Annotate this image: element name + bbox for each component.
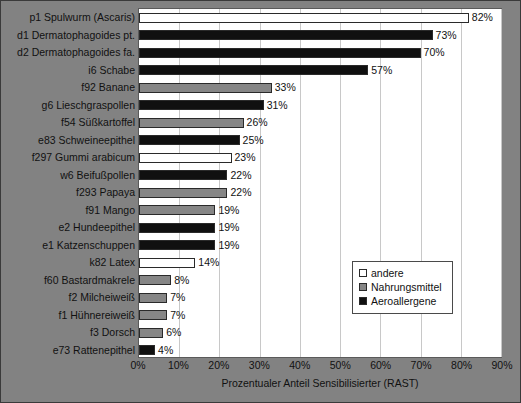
category-label: g6 Lieschgraspollen [42,97,135,115]
bar [139,30,433,40]
category-label: f91 Mango [85,202,135,220]
bar-value-label: 57% [371,62,392,80]
bar [139,345,155,355]
bar-value-label: 23% [235,149,256,167]
bar [139,275,171,285]
legend-item-nahrungsmittel: Nahrungsmittel [359,280,447,294]
bar-row: p1 Spulwurm (Ascaris)82% [139,9,501,27]
bar-row: g6 Lieschgraspollen31% [139,97,501,115]
x-tick-label: 10% [168,359,189,371]
category-label: k82 Latex [89,254,135,272]
category-label: f2 Milcheiweiß [68,289,135,307]
bar [139,170,227,180]
gridline [501,9,502,357]
x-tick-label: 50% [330,359,351,371]
bar-value-label: 14% [198,254,219,272]
chart-legend: andereNahrungsmittelAeroallergene [352,261,453,314]
legend-label: andere [371,267,404,279]
bar [139,48,421,58]
bar [139,205,215,215]
bar-row: f293 Papaya22% [139,184,501,202]
legend-swatch-icon [359,283,367,291]
bar-row: e73 Rattenepithel4% [139,342,501,360]
bar-value-label: 19% [218,219,239,237]
bar [139,240,215,250]
bar-row: f91 Mango19% [139,202,501,220]
x-tick-label: 20% [208,359,229,371]
bar [139,293,167,303]
category-label: f3 Dorsch [90,324,135,342]
legend-label: Nahrungsmittel [371,281,442,293]
bar-value-label: 26% [247,114,268,132]
bar [139,100,264,110]
category-label: f60 Bastardmakrele [44,272,135,290]
x-tick-label: 30% [249,359,270,371]
legend-item-andere: andere [359,266,447,280]
category-label: f293 Papaya [76,184,135,202]
bar-value-label: 19% [218,202,239,220]
bar [139,310,167,320]
bar-row: d1 Dermatophagoides pt.73% [139,27,501,45]
bar-value-label: 82% [472,9,493,27]
category-label: f92 Banane [81,79,135,97]
bar-value-label: 22% [230,167,251,185]
bar [139,153,232,163]
bar-row: f297 Gummi arabicum23% [139,149,501,167]
x-axis-title: Prozentualer Anteil Sensibilisierter (RA… [138,377,502,389]
bar [139,83,272,93]
bar-value-label: 19% [218,237,239,255]
bar [139,135,240,145]
bar-row: f92 Banane33% [139,79,501,97]
bar-value-label: 22% [230,184,251,202]
bar-row: f54 Süßkartoffel26% [139,114,501,132]
legend-swatch-icon [359,297,367,305]
bar-value-label: 7% [170,289,185,307]
category-label: e73 Rattenepithel [53,342,135,360]
bar-value-label: 7% [170,307,185,325]
category-label: e83 Schweineepithel [38,132,135,150]
bar-value-label: 31% [267,97,288,115]
bar [139,223,215,233]
bar-row: d2 Dermatophagoides fa.70% [139,44,501,62]
x-tick-label: 0% [130,359,145,371]
category-label: f54 Süßkartoffel [61,114,135,132]
x-tick-label: 90% [491,359,512,371]
chart-screenshot: p1 Spulwurm (Ascaris)82%d1 Dermatophagoi… [0,0,521,403]
category-label: i6 Schabe [88,62,135,80]
bar-row: i6 Schabe57% [139,62,501,80]
bar [139,188,227,198]
bar [139,258,195,268]
bar [139,328,163,338]
bar [139,118,244,128]
category-label: p1 Spulwurm (Ascaris) [29,9,135,27]
category-label: d1 Dermatophagoides pt. [17,27,135,45]
x-tick-label: 80% [451,359,472,371]
bar-value-label: 73% [436,27,457,45]
bar-row: e83 Schweineepithel25% [139,132,501,150]
bar-row: w6 Beifußpollen22% [139,167,501,185]
category-label: f1 Hühnereiweiß [59,307,135,325]
bar-row: e2 Hundeepithel19% [139,219,501,237]
category-label: w6 Beifußpollen [60,167,135,185]
bar-value-label: 8% [174,272,189,290]
category-label: e2 Hundeepithel [59,219,135,237]
x-tick-label: 40% [289,359,310,371]
category-label: e1 Katzenschuppen [42,237,135,255]
x-tick-label: 60% [370,359,391,371]
category-label: f297 Gummi arabicum [32,149,135,167]
x-tick-label: 70% [411,359,432,371]
bar-value-label: 4% [158,342,173,360]
bar-row: e1 Katzenschuppen19% [139,237,501,255]
bar-value-label: 33% [275,79,296,97]
bar [139,65,368,75]
bar-value-label: 70% [424,44,445,62]
bar [139,13,469,23]
bar-value-label: 25% [243,132,264,150]
category-label: d2 Dermatophagoides fa. [17,44,135,62]
bar-value-label: 6% [166,324,181,342]
x-axis-ticks: 0%10%20%30%40%50%60%70%80%90% [138,359,502,375]
bar-row: f3 Dorsch6% [139,324,501,342]
legend-label: Aeroallergene [371,295,436,307]
legend-item-aeroallergene: Aeroallergene [359,294,447,308]
legend-swatch-icon [359,269,367,277]
